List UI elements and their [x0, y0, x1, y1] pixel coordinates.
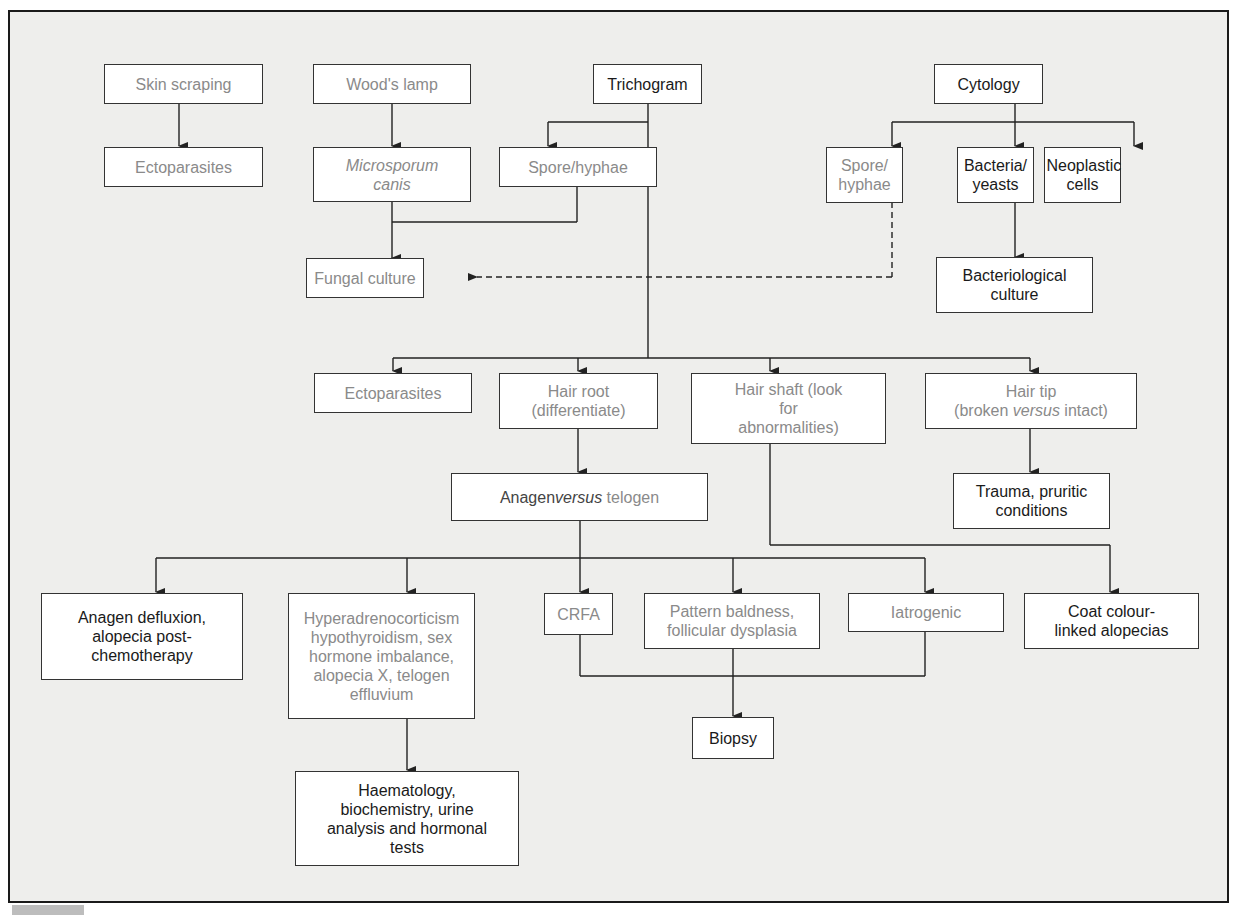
node-trichogram: Trichogram	[593, 64, 702, 104]
bacteria-yeasts-label: Bacteria/ yeasts	[961, 156, 1031, 194]
trauma-label: Trauma, pruritic conditions	[967, 482, 1097, 520]
node-ectoparasites-scraping: Ectoparasites	[104, 147, 263, 187]
hair-shaft-label: Hair shaft (look for abnormalities)	[734, 380, 844, 437]
node-pattern-baldness: Pattern baldness, follicular dysplasia	[644, 593, 820, 649]
hair-root-label: Hair root (differentiate)	[524, 382, 634, 420]
neoplastic-cells-label: Neoplastic cells	[1047, 156, 1119, 194]
hair-tip-sublabel: (broken versus intact)	[954, 401, 1108, 420]
hair-tip-versus: versus	[1013, 402, 1060, 419]
anagen-label: Anagen	[500, 488, 555, 507]
node-ectoparasites-trichogram: Ectoparasites	[314, 373, 472, 413]
node-hair-root: Hair root (differentiate)	[499, 373, 658, 429]
anagen-defluxion-label: Anagen defluxion, alopecia post-chemothe…	[72, 608, 212, 665]
bacteriological-culture-label: Bacteriological culture	[955, 266, 1075, 304]
hair-tip-intact: intact)	[1060, 402, 1108, 419]
hair-tip-label: Hair tip	[1006, 382, 1057, 401]
node-biopsy: Biopsy	[692, 717, 774, 759]
node-microsporum-canis: Microsporum canis	[313, 147, 471, 202]
anagen-versus-label: versus	[555, 488, 602, 507]
node-bacteriological-culture: Bacteriological culture	[936, 257, 1093, 313]
node-hair-tip: Hair tip (broken versus intact)	[925, 373, 1137, 429]
node-trauma-pruritic: Trauma, pruritic conditions	[953, 473, 1110, 529]
node-anagen-defluxion: Anagen defluxion, alopecia post-chemothe…	[41, 593, 243, 680]
node-crfa: CRFA	[544, 593, 613, 635]
endocrine-label: Hyperadrenocorticism hypothyroidism, sex…	[297, 609, 467, 704]
node-bacteria-yeasts: Bacteria/ yeasts	[957, 147, 1034, 203]
node-coat-colour-linked: Coat colour-linked alopecias	[1024, 593, 1199, 649]
node-hair-shaft: Hair shaft (look for abnormalities)	[691, 373, 886, 444]
microsporum-canis-label: Microsporum canis	[337, 156, 447, 194]
pattern-baldness-label: Pattern baldness, follicular dysplasia	[650, 602, 815, 640]
node-spore-hyphae-trichogram: Spore/hyphae	[499, 147, 657, 187]
node-endocrine-disorders: Hyperadrenocorticism hypothyroidism, sex…	[288, 593, 475, 719]
node-anagen-versus-telogen: Anagen versus telogen	[451, 473, 708, 521]
node-woods-lamp: Wood's lamp	[313, 64, 471, 104]
caption-marker	[12, 905, 84, 915]
node-haematology-tests: Haematology, biochemistry, urine analysi…	[295, 771, 519, 866]
spore-hyphae-label: Spore/ hyphae	[837, 156, 892, 194]
connector-lines	[0, 0, 1235, 915]
node-skin-scraping: Skin scraping	[104, 64, 263, 104]
coat-colour-label: Coat colour-linked alopecias	[1052, 602, 1172, 640]
hair-tip-broken: (broken	[954, 402, 1013, 419]
node-cytology: Cytology	[934, 64, 1043, 104]
node-spore-hyphae-cytology: Spore/ hyphae	[826, 147, 903, 203]
haematology-label: Haematology, biochemistry, urine analysi…	[322, 781, 492, 857]
node-iatrogenic: Iatrogenic	[848, 593, 1004, 632]
node-fungal-culture: Fungal culture	[306, 258, 424, 298]
telogen-label: telogen	[602, 488, 659, 507]
node-neoplastic-cells: Neoplastic cells	[1044, 147, 1121, 203]
